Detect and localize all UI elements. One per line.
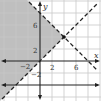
y-tick-neg2: −2	[31, 71, 41, 79]
inequality-graph: y x 6 2 −2 2 6 −2	[0, 0, 101, 101]
x-tick-2: 2	[50, 64, 54, 72]
y-tick-6: 6	[33, 22, 38, 30]
x-tick-neg2: −2	[20, 63, 30, 71]
y-tick-2: 2	[33, 47, 37, 55]
x-tick-6: 6	[74, 64, 79, 72]
y-axis-label: y	[42, 2, 48, 11]
intersection-point	[62, 35, 66, 39]
x-axis-label: x	[94, 51, 99, 60]
